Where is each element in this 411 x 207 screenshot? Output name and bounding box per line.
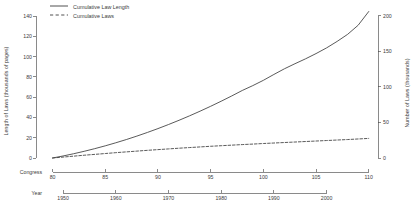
y-axis-right-title: Number of Laws (thousands) [404, 38, 410, 148]
year-tick-1970: 1970 [163, 195, 175, 201]
y-left-tick-80: 80 [14, 74, 32, 80]
legend-label-cumulative-law-length: Cumulative Law Length [73, 4, 129, 10]
chart-canvas [0, 0, 411, 207]
year-tick-2000: 2000 [321, 195, 333, 201]
year-tick-1950: 1950 [57, 195, 69, 201]
y-axis-left-title: Length of Laws (thousands of pages) [3, 36, 9, 146]
congress-tick-105: 105 [312, 174, 321, 180]
x-axis-congress-title: Congress [2, 169, 42, 175]
congress-tick-85: 85 [102, 174, 108, 180]
series-line [53, 12, 369, 158]
year-tick-1980: 1980 [215, 195, 227, 201]
year-tick-1960: 1960 [110, 195, 122, 201]
y-right-tick-200: 200 [383, 13, 401, 19]
y-right-tick-0: 0 [383, 155, 401, 161]
y-left-tick-0: 0 [14, 155, 32, 161]
y-left-tick-40: 40 [14, 114, 32, 120]
congress-tick-80: 80 [50, 174, 56, 180]
y-left-tick-140: 140 [14, 13, 32, 19]
y-right-tick-100: 100 [383, 84, 401, 90]
y-right-tick-150: 150 [383, 48, 401, 54]
y-left-tick-120: 120 [14, 33, 32, 39]
x-axis-year-title: Year [2, 190, 42, 196]
congress-tick-90: 90 [155, 174, 161, 180]
y-left-tick-60: 60 [14, 94, 32, 100]
y-left-tick-100: 100 [14, 54, 32, 60]
y-left-tick-20: 20 [14, 135, 32, 141]
series-line [53, 138, 369, 158]
congress-tick-95: 95 [208, 174, 214, 180]
congress-tick-100: 100 [259, 174, 268, 180]
chart-container: Length of Laws (thousands of pages) Numb… [0, 0, 411, 207]
year-tick-1990: 1990 [268, 195, 280, 201]
y-right-tick-50: 50 [383, 119, 401, 125]
legend-label-cumulative-laws: Cumulative Laws [73, 13, 114, 19]
congress-tick-110: 110 [365, 174, 373, 180]
